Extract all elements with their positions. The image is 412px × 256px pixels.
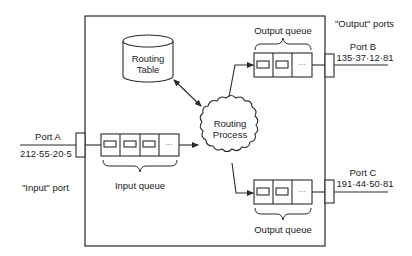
input-queue-ellipsis: ··· (159, 139, 179, 150)
port-c-name: Port C (338, 167, 388, 178)
process-to-b-arrow (229, 65, 253, 97)
routing-process-label: Routing Process (200, 118, 260, 140)
output-queue-b-label: Output queue (248, 25, 318, 36)
output-ports-caption: "Output" ports (335, 18, 394, 29)
input-port-caption: "Input" port (22, 182, 69, 193)
output-queue-c-ellipsis: ··· (292, 186, 312, 197)
port-b-name-text: Port B (338, 41, 388, 52)
table-process-arrow (174, 80, 201, 106)
process-to-c-arrow (232, 163, 253, 193)
output-queue-b-brace (255, 38, 311, 50)
port-a-name: Port A (22, 131, 74, 142)
port-b-address: 135·37·12·81 (335, 52, 395, 63)
port-a-address: 212·55·20·5 (16, 148, 76, 159)
port-c-address: 191·44·50·81 (335, 178, 395, 189)
port-b-connector (325, 54, 334, 77)
output-queue-c-brace (255, 208, 311, 220)
output-queue-b-ellipsis: ··· (292, 59, 312, 70)
port-c-connector (325, 180, 334, 203)
input-queue-label: Input queue (101, 180, 179, 191)
output-queue-c-label: Output queue (248, 224, 318, 235)
routing-table-label: Routing Table (123, 53, 173, 75)
input-queue-brace (103, 160, 177, 172)
port-a-connector (76, 133, 85, 157)
